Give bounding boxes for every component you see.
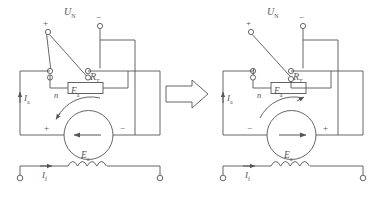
right-rotation-arc (260, 97, 303, 118)
right-supply-label: UN (267, 6, 279, 19)
right-Ia-label: Ia (226, 93, 233, 105)
left-If-label: If (41, 170, 47, 182)
right-resistor-right-lead (306, 71, 331, 88)
left-field-winding-coil (68, 162, 106, 167)
right-resistor-left-lead (253, 80, 271, 88)
left-rotation-arc (57, 97, 100, 118)
transition-arrow (166, 80, 208, 108)
left-Ea-label: Ea (70, 86, 80, 98)
right-machine-minus-sign: − (247, 123, 252, 133)
left-supply-label: UN (64, 6, 76, 19)
right-field-terminal-right[interactable] (360, 175, 366, 181)
right-speed-label: n (257, 90, 261, 100)
left-Ia-label: Ia (23, 93, 30, 105)
right-If-label: If (244, 170, 250, 182)
figure-canvas: UN + − RT Ia Ea n + − Ea If (0, 0, 383, 197)
right-plus-sign: + (246, 18, 251, 28)
right-machine-plus-sign: + (323, 123, 328, 133)
left-field-terminal-left[interactable] (17, 175, 23, 181)
right-switch-contact-lower-left[interactable] (250, 75, 255, 80)
right-resistor-label: RT (292, 71, 303, 84)
schematic-svg: UN + − RT Ia Ea n + − Ea If (0, 0, 383, 197)
left-speed-label: n (54, 90, 58, 100)
left-resistor-right-lead (103, 71, 128, 88)
left-supply-plus-terminal[interactable] (45, 29, 50, 34)
left-field-emf-label: Ea (80, 150, 90, 162)
right-supply-minus-terminal[interactable] (300, 23, 305, 28)
right-block-arrow-icon (166, 80, 208, 108)
left-minus-sign: − (96, 12, 101, 22)
left-field-terminal-right[interactable] (157, 175, 163, 181)
right-diagram (220, 23, 366, 180)
right-field-winding-coil (271, 162, 309, 167)
right-field-right-wire (310, 166, 363, 175)
right-minus-sign: − (299, 12, 304, 22)
left-switch-blade-b[interactable] (50, 35, 87, 76)
right-supply-top-wire (303, 40, 338, 71)
left-field-right-wire (107, 166, 160, 175)
right-field-emf-label: Ea (283, 150, 293, 162)
right-supply-plus-terminal[interactable] (248, 29, 253, 34)
left-supply-minus-terminal[interactable] (97, 23, 102, 28)
right-switch-blade-b[interactable] (252, 35, 290, 77)
left-diagram (17, 23, 163, 180)
left-machine-plus-sign: + (44, 123, 49, 133)
right-field-terminal-left[interactable] (220, 175, 226, 181)
left-supply-top-wire (100, 40, 135, 71)
left-switch-blade-a[interactable] (47, 34, 51, 68)
left-resistor-label: RT (89, 71, 100, 84)
left-rotation-arrowhead (56, 113, 60, 120)
right-Ea-label: Ea (273, 86, 283, 98)
left-plus-sign: + (43, 18, 48, 28)
left-machine-minus-sign: − (120, 123, 125, 133)
